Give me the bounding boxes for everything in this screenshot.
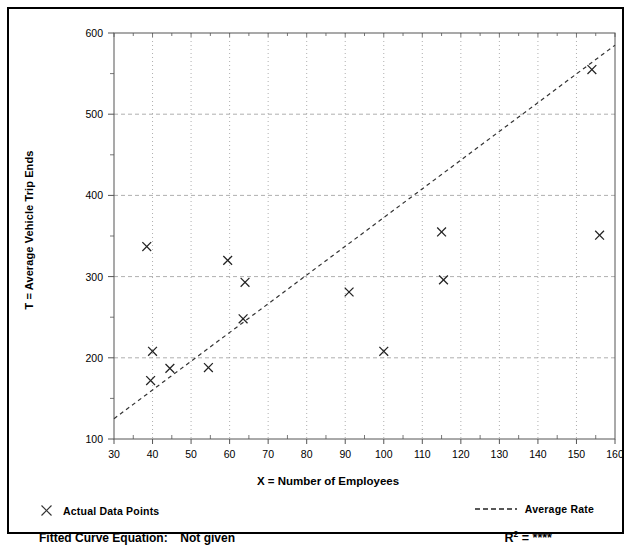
x-tick-label: 80	[301, 448, 313, 460]
r2-exponent: 2	[514, 529, 519, 539]
x-tick-label: 110	[414, 448, 431, 460]
x-tick-label: 130	[491, 448, 509, 460]
data-point-x-marker	[379, 347, 388, 356]
fitted-curve-label: Fitted Curve Equation:	[39, 531, 168, 545]
data-point-x-marker	[142, 242, 151, 251]
data-point-x-marker	[223, 256, 232, 265]
x-tick-label: 40	[147, 448, 159, 460]
axis-tick-labels: 3040506070809010011012013014015016010020…	[85, 27, 622, 460]
data-point-x-marker	[595, 231, 604, 240]
legend-actual-data-points: Actual Data Points	[39, 503, 159, 518]
data-point-x-marker	[345, 288, 354, 297]
y-tick-label: 300	[85, 271, 103, 283]
legend-average-rate-label: Average Rate	[525, 503, 594, 515]
x-tick-label: 120	[452, 448, 470, 460]
y-axis-title: T = Average Vehicle Trip Ends	[23, 60, 35, 400]
grid-lines	[114, 33, 615, 439]
y-tick-label: 200	[85, 352, 103, 364]
y-tick-label: 600	[85, 27, 103, 39]
data-point-x-marker	[437, 228, 446, 237]
y-tick-label: 500	[85, 108, 103, 120]
axes	[114, 33, 615, 439]
data-point-x-marker	[587, 65, 596, 74]
data-point-x-marker	[165, 364, 174, 373]
data-point-x-marker	[241, 278, 250, 287]
y-tick-label: 400	[85, 189, 103, 201]
x-tick-label: 30	[108, 448, 120, 460]
x-tick-label: 160	[606, 448, 622, 460]
fitted-curve-value: Not given	[180, 531, 235, 545]
r2-stars: ****	[533, 531, 552, 545]
x-tick-label: 60	[224, 448, 236, 460]
top-margin-strip	[0, 0, 638, 5]
r-squared-value: R2 = ****	[504, 529, 552, 545]
x-tick-label: 50	[185, 448, 197, 460]
x-tick-label: 140	[529, 448, 547, 460]
x-tick-label: 150	[568, 448, 586, 460]
x-marker-icon	[39, 503, 54, 518]
legend-average-rate: Average Rate	[475, 503, 594, 515]
x-tick-label: 90	[339, 448, 351, 460]
average-rate-trend-line	[114, 45, 615, 419]
data-point-x-marker	[146, 376, 155, 385]
scatter-plot-canvas: 3040506070809010011012013014015016010020…	[9, 9, 622, 532]
data-point-x-marker	[204, 363, 213, 372]
fitted-curve-equation: Fitted Curve Equation: Not given	[39, 531, 235, 545]
r2-equals: =	[522, 531, 529, 545]
chart-frame: 3040506070809010011012013014015016010020…	[7, 7, 624, 534]
x-tick-label: 100	[375, 448, 393, 460]
data-point-x-marker	[148, 347, 157, 356]
trend-line	[114, 45, 615, 419]
dashed-line-icon	[475, 504, 517, 514]
x-axis-title: X = Number of Employees	[9, 475, 638, 487]
legend-actual-label: Actual Data Points	[63, 505, 159, 517]
y-tick-label: 100	[85, 433, 103, 445]
x-tick-label: 70	[262, 448, 274, 460]
axis-ticks	[108, 33, 615, 444]
r2-label: R	[504, 531, 513, 545]
